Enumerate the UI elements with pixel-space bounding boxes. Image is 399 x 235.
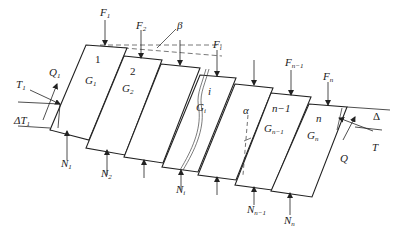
delta-T1-label: ΔT1 bbox=[13, 114, 30, 128]
slice-force-diagram: β α bbox=[0, 0, 399, 235]
slice-number-i: i bbox=[208, 85, 211, 97]
force-label-Fn-1: Fn−1 bbox=[284, 56, 303, 70]
slice-number-n: n bbox=[316, 112, 322, 124]
ground-lines-right bbox=[347, 107, 390, 130]
force-label-F2: F2 bbox=[135, 19, 147, 33]
force-label-T1: T1 bbox=[16, 78, 26, 92]
force-label-Q1: Q1 bbox=[49, 66, 60, 80]
slice-number-2: 2 bbox=[130, 65, 136, 77]
force-label-N1: N1 bbox=[60, 157, 72, 171]
force-label-Nn-1: Nn−1 bbox=[246, 203, 266, 217]
force-label-Q: Q bbox=[340, 152, 348, 164]
slice-number-1: 1 bbox=[95, 53, 101, 65]
beta-label: β bbox=[176, 19, 183, 31]
force-label-F1: F1 bbox=[99, 6, 110, 20]
force-label-Fn: Fn bbox=[322, 70, 334, 84]
delta-right-label: Δ bbox=[373, 110, 380, 122]
diagram-canvas: β α bbox=[0, 0, 399, 235]
force-label-T: T bbox=[372, 141, 379, 153]
force-label-Nn: Nn bbox=[283, 214, 295, 228]
slice-number-n-1: n−1 bbox=[272, 102, 290, 114]
alpha-label: α bbox=[243, 104, 249, 116]
force-label-Ni: Ni bbox=[175, 183, 185, 197]
force-label-Fi: Fi bbox=[212, 38, 222, 52]
force-label-N2: N2 bbox=[100, 167, 112, 181]
